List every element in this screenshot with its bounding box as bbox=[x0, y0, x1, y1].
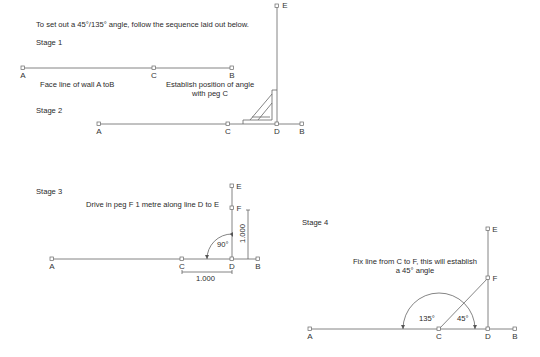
stage3-label-b: B bbox=[255, 263, 260, 271]
stage4-label-f: F bbox=[493, 275, 498, 283]
stage4-title: Stage 4 bbox=[302, 218, 328, 227]
stage4-label-d: D bbox=[485, 333, 491, 341]
stage4-angle-45: 45° bbox=[457, 314, 468, 323]
stage3-label-d: D bbox=[229, 263, 235, 271]
stage3-note: Drive in peg F 1 metre along line D to E bbox=[86, 200, 219, 209]
setting-out-diagram bbox=[0, 0, 540, 357]
stage3-label-a: A bbox=[49, 263, 54, 271]
stage4-angle-135: 135° bbox=[419, 314, 435, 323]
stage3-dim-vertical: 1.000 bbox=[238, 224, 247, 243]
stage3-label-c: C bbox=[179, 263, 185, 271]
stage1-label-e: E bbox=[282, 2, 287, 10]
stage2-label-c: C bbox=[225, 128, 231, 136]
stage4-label-a: A bbox=[307, 333, 312, 341]
stage4-note: Fix line from C to F, this will establis… bbox=[350, 257, 480, 275]
stage2-title: Stage 2 bbox=[36, 106, 62, 115]
stage4-label-b: B bbox=[512, 333, 517, 341]
angle-arc bbox=[403, 293, 475, 329]
stage2-label-b: B bbox=[299, 128, 304, 136]
stage1-note-wall: Face line of wall A toB bbox=[40, 80, 114, 89]
stage4-label-c: C bbox=[436, 333, 442, 341]
stage3-label-f: F bbox=[237, 205, 242, 213]
stage3-title: Stage 3 bbox=[36, 187, 62, 196]
stage1-note-peg: Establish position of angle with peg C bbox=[160, 80, 260, 98]
stage3-label-e: E bbox=[236, 183, 241, 191]
stage1-label-b: B bbox=[229, 72, 234, 80]
stage1-label-c: C bbox=[151, 72, 157, 80]
stage2-label-d: D bbox=[274, 128, 280, 136]
stage4-label-e: E bbox=[492, 226, 497, 234]
stage3-dim-horizontal: 1.000 bbox=[196, 274, 215, 283]
peg-markers bbox=[21, 4, 517, 331]
stage1-title: Stage 1 bbox=[36, 38, 62, 47]
stage2-label-a: A bbox=[96, 128, 101, 136]
stage1-label-a: A bbox=[20, 72, 25, 80]
stage3-angle-90: 90° bbox=[217, 240, 228, 249]
intro-text: To set out a 45°/135° angle, follow the … bbox=[36, 20, 249, 29]
